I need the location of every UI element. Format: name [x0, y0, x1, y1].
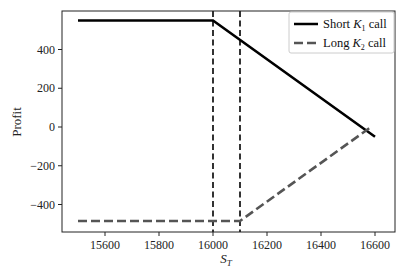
payoff-chart: 156001580016000162001640016600 −400−2000… [0, 0, 407, 272]
x-axis-label-sub: T [227, 258, 233, 268]
x-axis-ticks: 156001580016000162001640016600 [90, 232, 390, 252]
x-tick-label: 16400 [306, 238, 336, 252]
y-tick-label: 200 [37, 81, 55, 95]
y-axis-label: Profit [9, 107, 24, 137]
y-tick-label: −200 [30, 159, 55, 173]
x-tick-label: 16000 [198, 238, 228, 252]
x-tick-label: 15600 [90, 238, 120, 252]
x-tick-label: 15800 [144, 238, 174, 252]
y-tick-label: −400 [30, 198, 55, 212]
legend-item-short-call: Short K1 call [323, 17, 387, 33]
x-axis-label: ST [220, 251, 233, 268]
y-axis-ticks: −400−2000200400 [30, 43, 62, 212]
legend-item-long-call: Long K2 call [323, 36, 387, 52]
x-tick-label: 16200 [252, 238, 282, 252]
x-tick-label: 16600 [360, 238, 390, 252]
legend: Short K1 call Long K2 call [289, 12, 394, 53]
y-tick-label: 0 [49, 120, 55, 134]
y-tick-label: 400 [37, 43, 55, 57]
series-long-call-line [78, 126, 372, 221]
